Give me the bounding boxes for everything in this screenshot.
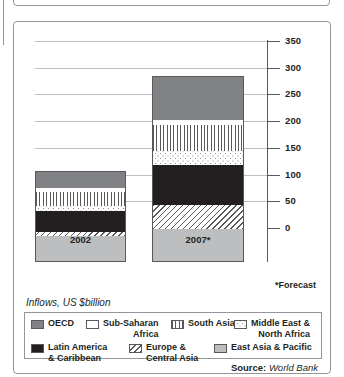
legend-item-oecd[interactable]: OECD: [31, 318, 74, 329]
legend-item-sub-saharan-africa[interactable]: Sub-Saharan Africa: [86, 318, 159, 339]
source-value: World Bank: [269, 362, 318, 373]
y-axis-label-250: 250: [285, 89, 301, 99]
tick-150: [267, 148, 280, 149]
y-axis-label-50: 50: [285, 196, 296, 206]
middle-east-swatch-icon: [234, 320, 247, 329]
gridline-350: [35, 41, 267, 42]
y-axis-label-200: 200: [285, 116, 301, 126]
source-line: Source: World Bank: [231, 362, 318, 373]
south-asia-swatch-icon: [171, 320, 184, 329]
legend-label-middle-east-north-africa: Middle East & North Africa: [251, 318, 310, 339]
legend-label-europe-central-asia: Europe & Central Asia: [146, 342, 198, 363]
y-axis-label-300: 300: [285, 63, 301, 73]
legend-label-latin-america-caribbean: Latin America & Caribbean: [48, 342, 107, 363]
legend-label-east-asia-pacific: East Asia & Pacific: [231, 342, 312, 353]
tick-350: [267, 41, 280, 42]
latin-america-swatch-icon: [31, 344, 44, 353]
bar-2002-segment-latin-america-caribbean[interactable]: [35, 211, 126, 233]
tick-300: [267, 68, 280, 69]
legend-label-sub-saharan-africa: Sub-Saharan Africa: [103, 318, 159, 339]
bar-2002-segment-south-asia[interactable]: [35, 192, 126, 207]
legend-label-south-asia: South Asia: [188, 318, 235, 329]
bar-2002-segment-oecd[interactable]: [35, 171, 126, 188]
legend-row-1: OECD Sub-Saharan Africa South Asia Middl…: [31, 318, 315, 339]
bar-2007[interactable]: [152, 68, 244, 262]
x-axis-label-2007: 2007*: [152, 234, 244, 245]
bar-2007-segment-oecd[interactable]: [152, 76, 244, 121]
previous-panel-stub: [13, 0, 330, 6]
legend-item-middle-east-north-africa[interactable]: Middle East & North Africa: [234, 318, 310, 339]
bar-2007-segment-latin-america-caribbean[interactable]: [152, 165, 244, 206]
legend-row-2: Latin America & Caribbean Europe & Centr…: [31, 342, 315, 363]
source-label: Source:: [231, 362, 266, 373]
legend-label-oecd: OECD: [48, 318, 74, 329]
sub-saharan-swatch-icon: [86, 320, 99, 329]
page-left-rule: [0, 0, 4, 45]
tick-100: [267, 175, 280, 176]
legend-item-europe-central-asia[interactable]: Europe & Central Asia: [129, 342, 198, 363]
y-axis-label-350: 350: [285, 36, 301, 46]
chart-panel: 350 300 250 200 150 100 50 0: [13, 21, 331, 374]
y-axis-label-100: 100: [285, 170, 301, 180]
east-asia-swatch-icon: [214, 344, 227, 353]
bar-2002[interactable]: [35, 68, 126, 262]
legend-item-south-asia[interactable]: South Asia: [171, 318, 235, 329]
legend-item-latin-america-caribbean[interactable]: Latin America & Caribbean: [31, 342, 107, 363]
bar-2007-segment-europe-central-asia[interactable]: [152, 205, 244, 228]
tick-250: [267, 94, 280, 95]
y-axis-label-150: 150: [285, 143, 301, 153]
forecast-footnote: *Forecast: [275, 280, 316, 290]
chart-legend: OECD Sub-Saharan Africa South Asia Middl…: [24, 312, 322, 359]
europe-swatch-icon: [129, 344, 142, 353]
x-axis-label-2002: 2002: [35, 234, 126, 245]
tick-0: [267, 228, 280, 229]
y-axis-label-0: 0: [285, 223, 290, 233]
bar-2007-segment-middle-east-north-africa[interactable]: [152, 151, 244, 165]
bar-2007-segment-south-asia[interactable]: [152, 125, 244, 151]
units-subtitle: Inflows, US $billion: [26, 297, 110, 308]
tick-50: [267, 201, 280, 202]
tick-200: [267, 121, 280, 122]
legend-item-east-asia-pacific[interactable]: East Asia & Pacific: [214, 342, 312, 353]
oecd-swatch-icon: [31, 320, 44, 329]
plot-area: 350 300 250 200 150 100 50 0: [24, 34, 322, 262]
